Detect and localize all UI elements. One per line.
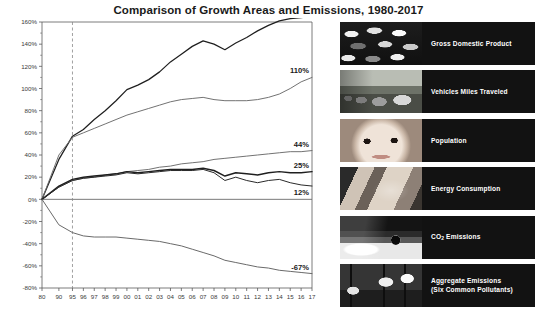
- x-axis-label: 02: [145, 293, 152, 300]
- series-line: [42, 199, 312, 273]
- x-axis-label: 07: [200, 293, 207, 300]
- series-line: [42, 168, 312, 199]
- x-axis-label: 15: [287, 293, 294, 300]
- y-axis-label: -40%: [23, 240, 38, 247]
- y-axis-label: 120%: [21, 63, 37, 70]
- x-axis-label: 17: [309, 293, 316, 300]
- smokestacks-photo: [340, 264, 422, 307]
- legend-item-label: Vehicles Miles Traveled: [422, 87, 535, 97]
- x-axis-label: 09: [221, 293, 228, 300]
- legend-item[interactable]: CO2 Emissions: [340, 216, 535, 259]
- line-chart: 160%140%120%100%80%60%40%20%0%-20%-40%-6…: [0, 18, 337, 312]
- y-axis-label: 100%: [21, 85, 37, 92]
- chart-svg: 160%140%120%100%80%60%40%20%0%-20%-40%-6…: [0, 18, 337, 312]
- chart-legend: Gross Domestic ProductVehicles Miles Tra…: [340, 22, 535, 307]
- y-axis-label: 0%: [28, 196, 37, 203]
- y-axis-label: 40%: [25, 151, 38, 158]
- x-axis-label: 01: [134, 293, 141, 300]
- x-axis-label: 04: [167, 293, 174, 300]
- x-axis-label: 13: [265, 293, 272, 300]
- legend-item[interactable]: Gross Domestic Product: [340, 22, 535, 65]
- y-axis-label: 20%: [25, 173, 38, 180]
- x-axis-label: 12: [254, 293, 261, 300]
- x-axis-label: 98: [102, 293, 109, 300]
- x-axis-label: 10: [232, 293, 239, 300]
- legend-item-label: Aggregate Emissions(Six Common Pollutant…: [422, 276, 535, 295]
- series-line: [42, 77, 312, 199]
- series-value-label: 44%: [294, 140, 309, 149]
- series-value-label: 25%: [294, 161, 309, 170]
- legend-item-label: Energy Consumption: [422, 184, 535, 194]
- x-axis-label: 95: [69, 293, 76, 300]
- y-axis-label: 160%: [21, 18, 37, 25]
- x-axis-label: 14: [276, 293, 283, 300]
- legend-item[interactable]: Aggregate Emissions(Six Common Pollutant…: [340, 264, 535, 307]
- series-line: [42, 151, 312, 200]
- x-axis-label: 96: [80, 293, 87, 300]
- x-axis-label: 80: [39, 293, 46, 300]
- x-axis-label: 00: [123, 293, 130, 300]
- series-line: [42, 169, 312, 199]
- x-axis-label: 11: [243, 293, 250, 300]
- legend-item-label: Population: [422, 136, 535, 146]
- legend-item[interactable]: Population: [340, 119, 535, 162]
- series-value-label: 12%: [294, 188, 309, 197]
- x-axis-label: 16: [298, 293, 305, 300]
- x-axis-label: 03: [156, 293, 163, 300]
- y-axis-label: -60%: [23, 262, 38, 269]
- chart-screenshot: Comparison of Growth Areas and Emissions…: [0, 0, 537, 312]
- y-axis-label: 60%: [25, 129, 38, 136]
- legend-item[interactable]: Vehicles Miles Traveled: [340, 70, 535, 113]
- page-title: Comparison of Growth Areas and Emissions…: [0, 4, 537, 16]
- legend-item-label: CO2 Emissions: [422, 232, 535, 242]
- x-axis-label: 99: [113, 293, 120, 300]
- x-axis-label: 97: [91, 293, 98, 300]
- x-axis-label: 90: [55, 293, 62, 300]
- plot-frame: [42, 22, 312, 288]
- y-axis-label: 80%: [25, 107, 38, 114]
- legend-item[interactable]: Energy Consumption: [340, 167, 535, 210]
- series-value-label: 110%: [290, 66, 309, 75]
- x-axis-label: 08: [211, 293, 218, 300]
- baby-face-photo: [340, 119, 422, 162]
- x-axis-label: 05: [178, 293, 185, 300]
- x-axis-label: 06: [189, 293, 196, 300]
- hand-holding-photo: [340, 167, 422, 210]
- y-axis-label: 140%: [21, 40, 37, 47]
- series-value-label: -67%: [291, 263, 309, 272]
- traffic-photo: [340, 70, 422, 113]
- coins-photo: [340, 22, 422, 65]
- y-axis-label: -20%: [23, 218, 38, 225]
- legend-item-label: Gross Domestic Product: [422, 39, 535, 49]
- y-axis-label: -80%: [23, 284, 38, 291]
- exhaust-pipe-photo: [340, 216, 422, 259]
